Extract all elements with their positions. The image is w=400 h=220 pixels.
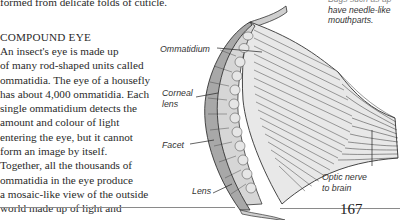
label-corneal-lens-line: Corneal <box>162 88 193 99</box>
label-lens: Lens <box>192 186 211 197</box>
label-optic-nerve: Optic nerve to brain <box>322 172 367 193</box>
footer-rule-left <box>0 207 235 208</box>
label-facet: Facet <box>162 140 184 151</box>
label-corneal-lens-line: lens <box>162 99 193 110</box>
label-ommatidium: Ommatidium <box>160 44 210 55</box>
label-optic-nerve-line: Optic nerve <box>322 172 367 183</box>
label-optic-nerve-line: to brain <box>322 183 367 194</box>
page-number: 167 <box>340 201 363 218</box>
label-corneal-lens: Corneal lens <box>162 88 193 109</box>
